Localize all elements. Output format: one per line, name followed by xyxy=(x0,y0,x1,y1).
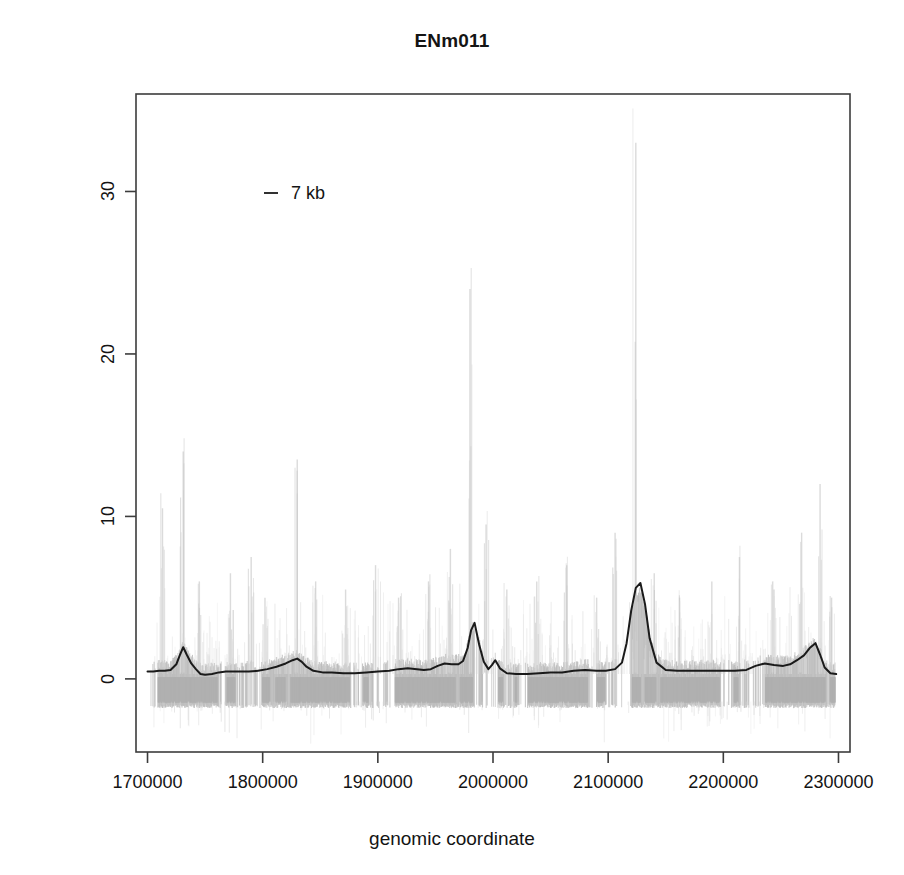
x-tick-label: 2000000 xyxy=(458,772,528,793)
figure-container: ENm011 7 kb pseudo median genomic coordi… xyxy=(0,0,904,875)
y-tick-label: 20 xyxy=(98,344,119,364)
y-tick-label: 0 xyxy=(98,674,119,684)
scatter-cloud xyxy=(151,108,835,743)
x-axis-ticks xyxy=(148,752,839,763)
plot-canvas xyxy=(0,0,904,875)
x-tick-label: 1700000 xyxy=(112,772,182,793)
legend-label-7kb: 7 kb xyxy=(291,183,325,204)
x-tick-label: 2100000 xyxy=(573,772,643,793)
x-tick-label: 2200000 xyxy=(688,772,758,793)
x-tick-label: 2300000 xyxy=(803,772,873,793)
x-axis-label: genomic coordinate xyxy=(0,828,904,850)
y-axis-ticks xyxy=(125,191,136,678)
x-tick-label: 1900000 xyxy=(343,772,413,793)
y-tick-label: 10 xyxy=(98,506,119,526)
x-tick-label: 1800000 xyxy=(228,772,298,793)
y-tick-label: 30 xyxy=(98,181,119,201)
